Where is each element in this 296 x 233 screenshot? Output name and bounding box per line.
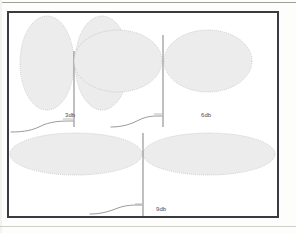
gain-label-9db: 9db <box>156 206 166 212</box>
lobe-6db-right <box>164 30 252 92</box>
scanned-figure-page: 3db 6db 9db <box>0 0 296 233</box>
pattern-6db-group <box>74 30 252 127</box>
lobe-9db-left <box>10 133 142 175</box>
gain-label-3db: 3db <box>65 112 75 118</box>
radiation-pattern-canvas <box>7 11 279 218</box>
scan-rule-bottom <box>0 226 296 227</box>
feed-cable-6db-icon <box>111 116 162 127</box>
lobe-6db-left <box>74 30 162 92</box>
pattern-9db-group <box>10 133 275 216</box>
scan-rule-top <box>0 2 296 3</box>
gain-label-6db: 6db <box>201 112 211 118</box>
lobe-9db-right <box>143 133 275 175</box>
page-edge-left <box>0 0 2 233</box>
lobe-3db-left <box>20 16 74 110</box>
feed-cable-9db-icon <box>90 205 142 214</box>
feed-cable-3db-icon <box>11 121 73 132</box>
